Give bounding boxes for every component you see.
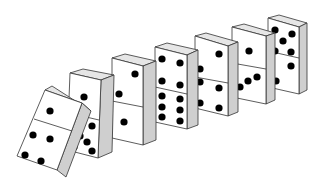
domino-6 [232, 24, 275, 104]
domino-side-face [266, 33, 275, 104]
domino-pip [80, 93, 87, 100]
domino-pip [245, 47, 252, 54]
domino-pip [176, 117, 183, 124]
domino-pip [215, 84, 222, 91]
domino-pip [46, 107, 53, 114]
domino-pip [176, 95, 183, 102]
domino-pip [29, 131, 36, 138]
domino-pip [158, 77, 165, 84]
domino-pip [115, 90, 122, 97]
domino-pip [120, 118, 127, 125]
domino-pip [176, 59, 183, 66]
domino-pip [131, 70, 138, 77]
domino-pip [288, 30, 295, 37]
domino-side-face [187, 50, 198, 129]
domino-pip [158, 55, 165, 62]
domino-3 [112, 54, 156, 145]
domino-illustration [0, 0, 321, 183]
domino-pip [21, 151, 28, 158]
domino-pip [158, 103, 165, 110]
domino-pip [215, 104, 222, 111]
domino-pip [176, 81, 183, 88]
domino-5 [195, 33, 238, 116]
domino-pip [158, 92, 165, 99]
domino-side-face [228, 42, 238, 116]
domino-pip [176, 106, 183, 113]
domino-pip [46, 135, 53, 142]
domino-pip [253, 73, 260, 80]
domino-pip [287, 48, 294, 55]
domino-pip [279, 37, 286, 44]
domino-pip [83, 138, 90, 145]
domino-side-face [143, 61, 156, 145]
domino-pip [244, 77, 251, 84]
domino-pip [37, 157, 44, 164]
domino-side-face [299, 23, 307, 94]
domino-pip [88, 122, 95, 129]
domino-pip [158, 113, 165, 120]
domino-pip [88, 147, 95, 154]
domino-4 [155, 43, 198, 129]
domino-pip [215, 50, 222, 57]
domino-pip [287, 62, 294, 69]
